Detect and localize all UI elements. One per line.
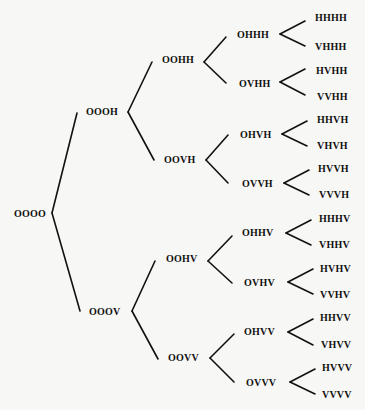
node-l4-5: VHVH (317, 140, 348, 152)
node-l4-3: VVHH (317, 91, 348, 103)
node-l3-2: OHVH (240, 129, 271, 141)
node-l4-12: HHVV (320, 312, 351, 324)
node-l2-0: OOHH (162, 54, 194, 66)
node-l3-7: OVVV (246, 377, 276, 389)
node-l4-7: VVVH (319, 189, 349, 201)
node-l4-2: HVHH (316, 65, 347, 77)
node-l4-10: HVHV (320, 263, 351, 275)
node-l4-6: HVVH (318, 163, 349, 175)
node-l3-1: OVHH (239, 78, 270, 90)
node-l4-4: HHVH (317, 114, 348, 126)
node-l4-14: HVVV (322, 362, 352, 374)
node-l2-2: OOHV (166, 253, 197, 265)
node-l1-1: OOOV (89, 306, 120, 318)
node-root: OOOO (14, 208, 46, 220)
tree-diagram: OOOO OOOH OOOV OOHH OOVH OOHV OOVV OHHH … (0, 0, 365, 410)
node-l3-6: OHVV (244, 326, 275, 338)
node-l4-0: HHHH (315, 12, 347, 24)
node-l2-3: OOVV (168, 352, 199, 364)
node-l3-0: OHHH (237, 29, 269, 41)
node-l2-1: OOVH (164, 154, 195, 166)
node-l3-4: OHHV (242, 227, 273, 239)
node-l4-9: VHHV (319, 239, 350, 251)
node-l4-11: VVHV (320, 289, 350, 301)
node-l4-13: VHVV (321, 339, 351, 351)
node-l4-8: HHHV (319, 213, 350, 225)
node-l3-5: OVHV (244, 277, 275, 289)
node-l4-1: VHHH (315, 41, 346, 53)
node-l3-3: OVVH (242, 178, 273, 190)
node-l1-0: OOOH (86, 106, 118, 118)
node-l4-15: VVVV (322, 389, 352, 401)
